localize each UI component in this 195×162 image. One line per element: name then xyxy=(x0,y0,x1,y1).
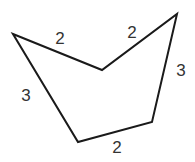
pentagon-diagram: 2 2 3 2 3 xyxy=(0,0,195,162)
side-label-top-left: 2 xyxy=(55,29,64,48)
side-label-top-right: 2 xyxy=(127,23,136,42)
side-label-left: 3 xyxy=(21,86,30,105)
side-label-right: 3 xyxy=(176,61,185,80)
side-label-bottom: 2 xyxy=(112,138,121,157)
concave-pentagon-shape xyxy=(13,14,177,142)
